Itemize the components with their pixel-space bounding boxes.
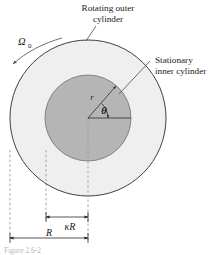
- angular-velocity-subscript: 0: [28, 42, 32, 50]
- outer-cylinder-label-line2: cylinder: [93, 14, 123, 24]
- figure-caption-partial: Figure 2.6-2: [4, 246, 41, 255]
- inner-cylinder-label-line1: Stationary: [155, 55, 193, 65]
- leader-line-outer-cylinder: [86, 26, 96, 41]
- angular-coordinate-label: θ: [101, 105, 107, 116]
- cylinder-cross-section-diagram: Rotating outer cylinder Stationary inner…: [0, 0, 221, 255]
- inner-radius-label: κR: [65, 221, 76, 232]
- figure-container: Rotating outer cylinder Stationary inner…: [0, 0, 221, 255]
- outer-radius-label: R: [45, 227, 52, 238]
- angular-velocity-label: Ω: [18, 36, 26, 47]
- outer-cylinder-label-line1: Rotating outer: [82, 3, 135, 13]
- inner-cylinder-label-line2: inner cylinder: [155, 66, 206, 76]
